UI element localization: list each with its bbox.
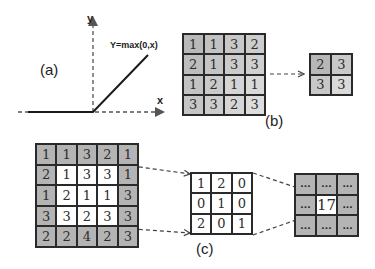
convolution-input-grid: 1132121331121133323322423 [35,143,139,248]
pooling-input-cell: 1 [184,35,203,53]
pooling-output-cell: 3 [311,76,330,95]
convolution-input-cell: 1 [78,186,96,205]
pooling-output-cell: 2 [311,55,330,74]
convolution-input-cell: 1 [37,186,55,205]
convolution-output-cell: ... [296,216,315,235]
convolution-input-cell: 1 [57,145,75,164]
convolution-input-cell: 3 [37,207,55,226]
convolution-kernel-grid: 120010201 [190,172,253,235]
kernel-cell: 2 [212,174,230,192]
convolution-input-cell: 3 [78,166,96,185]
convolution-input-cell: 2 [98,227,116,246]
convolution-input-cell: 2 [57,186,75,205]
x-axis-label: x [157,94,163,106]
kernel-cell: 0 [233,174,251,192]
convolution-output-cell: 17 [317,196,336,215]
convolution-input-cell: 2 [57,227,75,246]
convolution-output-cell: ... [296,175,315,194]
convolution-output-cell: ... [338,175,357,194]
y-axis-label: y [87,12,93,24]
convolution-input-cell: 4 [78,227,96,246]
pooling-input-cell: 2 [246,35,265,53]
pooling-input-cell: 3 [225,35,244,53]
convolution-input-cell: 1 [37,145,55,164]
convolution-input-cell: 3 [98,166,116,185]
kernel-cell: 0 [233,194,251,212]
pooling-input-cell: 3 [246,96,265,114]
convolution-input-cell: 1 [98,186,116,205]
pooling-input-grid: 1132213312113323 [182,33,266,116]
kernel-cell: 0 [192,194,210,212]
pooling-input-cell: 2 [184,55,203,73]
pooling-input-cell: 3 [184,96,203,114]
pooling-input-cell: 3 [205,96,224,114]
convolution-input-cell: 3 [78,145,96,164]
convolution-output-cell: ... [338,216,357,235]
convolution-input-cell: 3 [98,207,116,226]
convolution-input-cell: 3 [119,186,137,205]
convolution-input-cell: 3 [57,207,75,226]
pooling-output-cell: 3 [332,76,351,95]
convolution-input-cell: 2 [37,227,55,246]
pooling-input-cell: 1 [184,76,203,94]
convolution-input-cell: 3 [119,227,137,246]
convolution-output-grid: ............17............ [294,173,359,237]
convolution-input-cell: 1 [119,166,137,185]
kernel-cell: 1 [233,215,251,233]
pooling-output-cell: 3 [332,55,351,74]
pooling-input-cell: 3 [246,55,265,73]
panel-b-label: (b) [265,112,283,129]
pooling-input-cell: 2 [205,76,224,94]
convolution-input-cell: 1 [57,166,75,185]
panel-c-label: (c) [196,240,214,257]
panel-a-label: (a) [40,61,58,78]
pooling-input-cell: 1 [246,76,265,94]
pooling-input-cell: 2 [225,96,244,114]
relu-function-label: Y=max(0,x) [110,40,158,50]
convolution-input-cell: 2 [37,166,55,185]
convolution-input-cell: 1 [119,145,137,164]
kernel-cell: 1 [192,174,210,192]
convolution-input-cell: 2 [78,207,96,226]
convolution-input-cell: 3 [119,207,137,226]
kernel-cell: 1 [212,194,230,212]
pooling-input-cell: 3 [225,55,244,73]
convolution-output-cell: ... [317,175,336,194]
convolution-input-cell: 2 [98,145,116,164]
convolution-output-cell: ... [296,196,315,215]
pooling-input-cell: 1 [205,35,224,53]
kernel-cell: 2 [192,215,210,233]
pooling-input-cell: 1 [205,55,224,73]
convolution-output-cell: ... [317,216,336,235]
pooling-output-grid: 2333 [309,53,353,96]
kernel-cell: 0 [212,215,230,233]
pooling-input-cell: 1 [225,76,244,94]
convolution-output-cell: ... [338,196,357,215]
